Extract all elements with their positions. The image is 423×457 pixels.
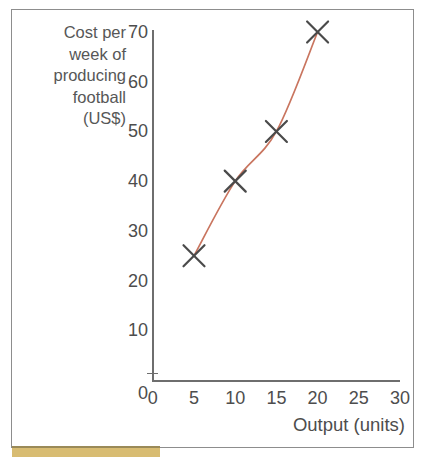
x-tick-label: 25 <box>342 389 376 407</box>
data-point-marker-x <box>225 171 246 192</box>
y-tick-label: 50 <box>108 122 148 140</box>
x-tick-label: 0 <box>136 389 170 407</box>
y-axis-line <box>152 30 154 382</box>
x-axis-line <box>152 380 400 382</box>
cost-curve-line <box>194 32 318 256</box>
page-bottom-strip <box>12 446 160 457</box>
y-tick-label: 60 <box>108 73 148 91</box>
data-point-marker-x <box>307 22 328 43</box>
y-tick-label: 70 <box>108 23 148 41</box>
data-point-marker-x <box>266 121 287 142</box>
plot-area: 010203040506070 051015202530 <box>0 0 423 457</box>
chart-page: Cost per week of producing football (US$… <box>0 0 423 457</box>
x-axis-title: Output (units) <box>200 415 405 435</box>
x-tick-label: 10 <box>218 389 252 407</box>
origin-tick-mark <box>147 373 158 374</box>
y-tick-label: 30 <box>108 222 148 240</box>
x-tick-label: 5 <box>177 389 211 407</box>
x-tick-label: 15 <box>259 389 293 407</box>
x-tick-label: 20 <box>301 389 335 407</box>
x-tick-label: 30 <box>383 389 417 407</box>
y-tick-label: 20 <box>108 272 148 290</box>
y-tick-label: 10 <box>108 321 148 339</box>
y-tick-label: 40 <box>108 172 148 190</box>
data-point-marker-x <box>184 245 205 266</box>
